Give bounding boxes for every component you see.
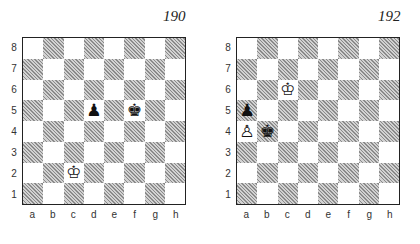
square-b2 <box>43 163 63 184</box>
square-h5 <box>379 100 399 121</box>
square-f7 <box>338 59 358 80</box>
black-king-icon: ♚ <box>127 102 142 119</box>
white-king-icon: ♔ <box>280 81 295 98</box>
square-f5 <box>338 100 358 121</box>
square-f4 <box>124 121 144 142</box>
rank-label: 7 <box>222 58 234 79</box>
square-h3 <box>165 142 185 163</box>
square-a1 <box>23 183 43 204</box>
rank-label: 6 <box>222 79 234 100</box>
square-c7 <box>278 59 298 80</box>
square-f4 <box>338 121 358 142</box>
file-label: f <box>125 207 146 221</box>
file-label: h <box>380 207 401 221</box>
square-d4 <box>84 121 104 142</box>
square-b1 <box>257 183 277 204</box>
file-label: d <box>84 207 105 221</box>
square-a5: ♟ <box>237 100 257 121</box>
square-h1 <box>379 183 399 204</box>
square-c1 <box>278 183 298 204</box>
square-a2 <box>23 163 43 184</box>
square-a8 <box>23 38 43 59</box>
square-a8 <box>237 38 257 59</box>
file-label: c <box>277 207 298 221</box>
square-b7 <box>257 59 277 80</box>
square-d1 <box>84 183 104 204</box>
square-d8 <box>298 38 318 59</box>
file-label: h <box>166 207 187 221</box>
square-d7 <box>84 59 104 80</box>
square-b7 <box>43 59 63 80</box>
square-c5 <box>64 100 84 121</box>
square-c2: ♔ <box>64 163 84 184</box>
square-c6: ♔ <box>278 80 298 101</box>
square-g8 <box>359 38 379 59</box>
rank-label: 2 <box>8 163 20 184</box>
square-c4 <box>278 121 298 142</box>
square-c8 <box>64 38 84 59</box>
square-h6 <box>379 80 399 101</box>
square-g5 <box>359 100 379 121</box>
square-g8 <box>145 38 165 59</box>
square-c5 <box>278 100 298 121</box>
square-a6 <box>237 80 257 101</box>
square-a7 <box>237 59 257 80</box>
square-f3 <box>124 142 144 163</box>
file-labels: abcdefgh <box>22 207 186 221</box>
square-g4 <box>145 121 165 142</box>
square-e7 <box>104 59 124 80</box>
square-c6 <box>64 80 84 101</box>
square-f5: ♚ <box>124 100 144 121</box>
square-b6 <box>43 80 63 101</box>
file-label: a <box>22 207 43 221</box>
square-g5 <box>145 100 165 121</box>
rank-label: 8 <box>8 37 20 58</box>
square-e6 <box>318 80 338 101</box>
square-g4 <box>359 121 379 142</box>
rank-label: 8 <box>222 37 234 58</box>
black-pawn-icon: ♟ <box>86 102 101 119</box>
square-e2 <box>318 163 338 184</box>
rank-label: 5 <box>8 100 20 121</box>
rank-labels: 87654321 <box>8 37 20 205</box>
square-c3 <box>64 142 84 163</box>
square-h8 <box>165 38 185 59</box>
square-e8 <box>318 38 338 59</box>
square-f7 <box>124 59 144 80</box>
rank-label: 1 <box>222 184 234 205</box>
square-e7 <box>318 59 338 80</box>
square-e1 <box>318 183 338 204</box>
square-d6 <box>298 80 318 101</box>
square-d6 <box>84 80 104 101</box>
square-d8 <box>84 38 104 59</box>
file-label: e <box>318 207 339 221</box>
rank-label: 4 <box>8 121 20 142</box>
square-h6 <box>165 80 185 101</box>
square-f6 <box>124 80 144 101</box>
file-label: g <box>359 207 380 221</box>
rank-label: 4 <box>222 121 234 142</box>
square-e6 <box>104 80 124 101</box>
square-d2 <box>298 163 318 184</box>
square-c7 <box>64 59 84 80</box>
square-d4 <box>298 121 318 142</box>
chess-diagram-190: 190 87654321 ♟♚♔ abcdefgh <box>0 0 210 244</box>
file-label: a <box>236 207 257 221</box>
square-e3 <box>318 142 338 163</box>
square-f8 <box>124 38 144 59</box>
square-h4 <box>379 121 399 142</box>
square-h3 <box>379 142 399 163</box>
square-c2 <box>278 163 298 184</box>
rank-label: 6 <box>8 79 20 100</box>
square-b4: ♚ <box>257 121 277 142</box>
square-a7 <box>23 59 43 80</box>
diagram-number: 190 <box>163 8 186 25</box>
square-b8 <box>257 38 277 59</box>
square-a2 <box>237 163 257 184</box>
square-f1 <box>124 183 144 204</box>
rank-labels: 87654321 <box>222 37 234 205</box>
square-f8 <box>338 38 358 59</box>
square-e1 <box>104 183 124 204</box>
white-pawn-icon: ♙ <box>240 123 255 140</box>
square-d3 <box>298 142 318 163</box>
